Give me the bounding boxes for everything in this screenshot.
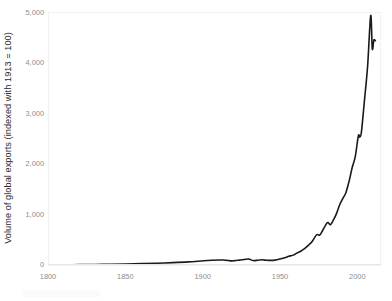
x-axis-tick-label: 2000 [349,272,365,281]
x-axis-tick-label: 1900 [194,272,210,281]
x-axis-tick-label: 1850 [117,272,133,281]
series-line-volume-of-global-exports [49,15,375,265]
chart-figure: Volume of global exports (indexed with 1… [0,0,392,301]
x-axis-tick-labels: 18001850190019502000 [0,272,392,286]
y-axis-tick-label: 1,000 [10,209,44,218]
y-axis-tick-label: 5,000 [10,8,44,17]
y-axis-tick-label: 2,000 [10,159,44,168]
scan-artifact [22,290,100,297]
y-axis-tick-labels: 01,0002,0003,0004,0005,000 [10,0,44,301]
y-axis-tick-label: 0 [10,260,44,269]
x-axis-tick-label: 1800 [40,272,56,281]
line-chart-svg [49,13,380,265]
plot-area [48,12,381,266]
x-axis-line [48,264,380,265]
x-axis-tick-label: 1950 [272,272,288,281]
y-axis-tick-label: 4,000 [10,58,44,67]
y-axis-tick-label: 3,000 [10,108,44,117]
